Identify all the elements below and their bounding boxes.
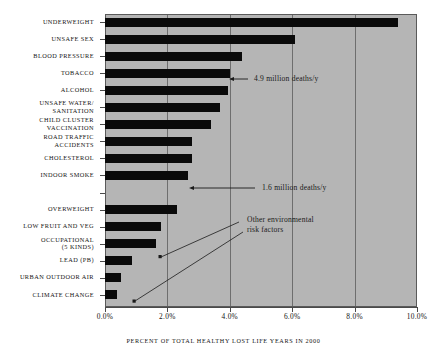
y-axis-label-road-traffic-accidents: ROAD TRAFFIC ACCIDENTS <box>43 133 94 148</box>
y-tick-10 <box>100 193 105 194</box>
bar-urban-outdoor-air <box>105 273 121 282</box>
bar-tobacco <box>105 69 230 78</box>
y-tick-0 <box>100 22 105 23</box>
annotation-indoor-smoke-deaths: 1.6 million deaths/y <box>262 183 327 193</box>
annotation-other-environmental-risk-factors: Other environmental risk factors <box>247 215 314 235</box>
bar-climate-change <box>105 290 117 299</box>
bar-cholesterol <box>105 154 192 163</box>
x-tick-label-2: 2.0% <box>147 312 187 321</box>
y-tick-14 <box>100 261 105 262</box>
bar-alcohol <box>105 86 228 95</box>
y-axis-label-cholesterol: CHOLESTEROL <box>44 154 94 162</box>
y-tick-15 <box>100 278 105 279</box>
bar-road-traffic-accidents <box>105 137 192 146</box>
x-tick-label-8: 8.0% <box>335 312 375 321</box>
y-axis-label-indoor-smoke: INDOOR SMOKE <box>40 171 94 179</box>
bar-occupational-kinds <box>105 239 156 248</box>
y-axis-label-underweight: UNDERWEIGHT <box>43 18 94 26</box>
y-tick-7 <box>100 141 105 142</box>
y-tick-12 <box>100 227 105 228</box>
y-axis-label-urban-outdoor-air: URBAN OUTDOOR AIR <box>20 273 94 281</box>
bar-unsafe-sex <box>105 35 295 44</box>
y-axis-label-overweight: OVERWEIGHT <box>48 205 94 213</box>
y-tick-13 <box>100 244 105 245</box>
y-tick-11 <box>100 210 105 211</box>
bar-underweight <box>105 18 398 27</box>
x-axis-line <box>105 307 418 308</box>
y-tick-1 <box>100 39 105 40</box>
bar-chart-figure: UNDERWEIGHTUNSAFE SEXBLOOD PRESSURETOBAC… <box>0 0 447 359</box>
y-tick-5 <box>100 107 105 108</box>
y-tick-16 <box>100 295 105 296</box>
y-tick-6 <box>100 124 105 125</box>
y-axis-label-unsafe-water-sanitation: UNSAFE WATER/ SANITATION <box>39 99 94 114</box>
y-axis-label-tobacco: TOBACCO <box>61 69 94 77</box>
annotation-tobacco-deaths: 4.9 million deaths/y <box>254 74 319 84</box>
bar-overweight <box>105 205 177 214</box>
gridline-6pct <box>292 15 293 306</box>
y-tick-3 <box>100 73 105 74</box>
y-tick-9 <box>100 175 105 176</box>
x-tick-label-4: 4.0% <box>210 312 250 321</box>
x-tick-label-6: 6.0% <box>272 312 312 321</box>
y-tick-8 <box>100 158 105 159</box>
gridline-8pct <box>355 15 356 306</box>
bar-low-fruit-and-veg <box>105 222 161 231</box>
y-axis-label-low-fruit-and-veg: LOW FRUIT AND VEG <box>23 222 94 230</box>
y-axis-label-climate-change: CLIMATE CHANGE <box>33 291 94 299</box>
bar-unsafe-water-sanitation <box>105 103 220 112</box>
bar-child-cluster-vaccination <box>105 120 211 129</box>
bar-blood-pressure <box>105 52 242 61</box>
y-axis-label-child-cluster-vaccination: CHILD CLUSTER VACCINATION <box>39 116 94 131</box>
bar-lead-pb <box>105 256 132 265</box>
x-axis-caption: PERCENT OF TOTAL HEALTHY LOST LIFE YEARS… <box>0 337 447 344</box>
bar-indoor-smoke <box>105 171 188 180</box>
y-axis-label-occupational-kinds: OCCUPATIONAL (5 KINDS) <box>41 236 94 251</box>
y-axis-label-blood-pressure: BLOOD PRESSURE <box>33 52 94 60</box>
y-tick-4 <box>100 90 105 91</box>
y-tick-2 <box>100 56 105 57</box>
x-tick-label-0: 0.0% <box>85 312 125 321</box>
y-axis-label-lead-pb: LEAD (PB) <box>60 256 94 264</box>
y-axis-label-alcohol: ALCOHOL <box>61 86 94 94</box>
x-tick-label-10: 10.0% <box>397 312 437 321</box>
y-axis-label-unsafe-sex: UNSAFE SEX <box>52 35 94 43</box>
